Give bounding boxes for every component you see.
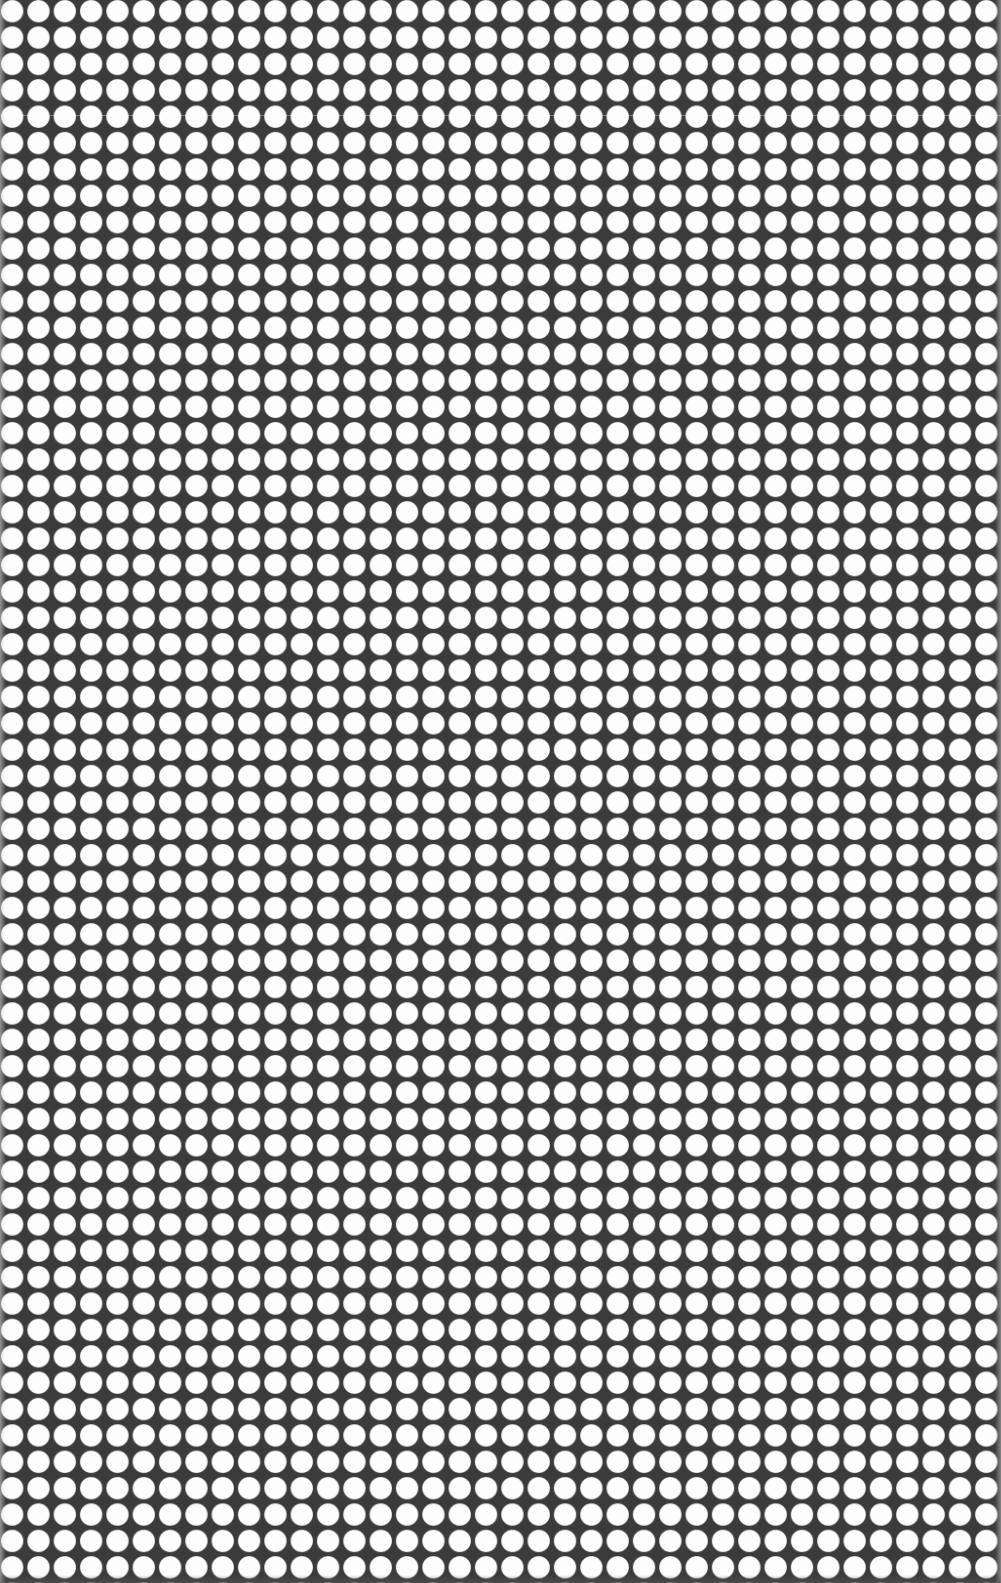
horizontal-seam-line — [0, 115, 1001, 116]
left-edge-vignette — [0, 0, 6, 1583]
bottom-edge-shadow — [0, 1575, 1001, 1583]
right-edge-vignette — [995, 0, 1001, 1583]
dot-grid-pattern — [0, 0, 1001, 1583]
